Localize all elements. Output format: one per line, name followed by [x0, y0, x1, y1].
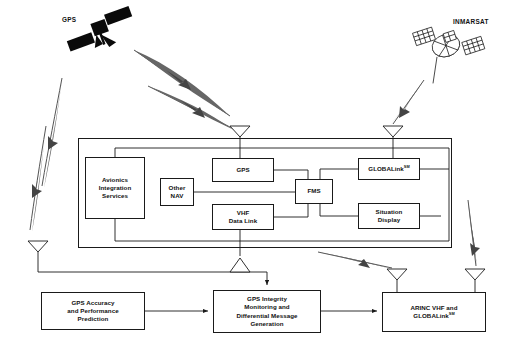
accuracy-line-3: Prediction [78, 315, 109, 322]
gps-integrity-monitoring-box[interactable]: GPS Integrity Monitoring and Differentia… [213, 290, 321, 333]
wire-arinc-antenna-stems [397, 280, 475, 292]
diagram-canvas: GPS INMARSAT Avionics Integration Servic… [0, 0, 526, 358]
globalink-avionics-label: GLOBALink [368, 165, 404, 172]
beam-inmarsat-to-aircraft [391, 80, 424, 124]
arinc-line-2: GLOBALink [413, 312, 449, 319]
ais-line-1: Avionics [102, 176, 128, 183]
ais-line-2: Integration [99, 184, 132, 191]
situation-line-2: Display [378, 216, 400, 223]
avionics-integration-services-box[interactable]: Avionics Integration Services [85, 157, 145, 219]
vhf-data-link-box[interactable]: VHF Data Link [212, 204, 274, 230]
integrity-line-1: GPS Integrity [247, 295, 287, 302]
globalink-avionics-box[interactable]: GLOBALinkSM [358, 158, 420, 180]
integrity-line-2: Monitoring and [244, 303, 289, 310]
integrity-line-4: Generation [250, 320, 283, 327]
situation-display-box[interactable]: Situation Display [358, 203, 420, 229]
globalink-avionics-sup: SM [404, 165, 410, 169]
fms-label: FMS [305, 187, 322, 195]
wire-uplink-antenna-down-to-integrity [240, 272, 267, 285]
gps-satellite-icon [63, 6, 140, 60]
inmarsat-satellite-label: INMARSAT [453, 18, 489, 25]
wire-ground-antenna-to-uplink-antenna [38, 252, 240, 272]
other-nav-line-1: Other [169, 184, 186, 191]
other-nav-box[interactable]: Other NAV [160, 178, 194, 206]
antenna-aircraft-gps [230, 126, 250, 137]
other-nav-line-2: NAV [171, 192, 184, 199]
arinc-line-1: ARINC VHF and [410, 304, 457, 311]
gps-accuracy-performance-prediction-box[interactable]: GPS Accuracy and Performance Prediction [41, 292, 145, 330]
antenna-aircraft-satcom [383, 126, 403, 137]
gps-satellite-label: GPS [62, 16, 76, 23]
beam-aircraft-to-arinc-vhf [318, 252, 392, 269]
ais-line-3: Services [102, 192, 128, 199]
accuracy-line-2: and Performance [67, 307, 118, 314]
beam-gps-to-aircraft-1 [134, 50, 230, 116]
antenna-arinc-vhf [387, 269, 407, 280]
arinc-vhf-globalink-box[interactable]: ARINC VHF and GLOBALinkSM [382, 292, 486, 332]
antenna-ground-vhf-uplink [230, 258, 250, 272]
fms-box[interactable]: FMS [295, 179, 333, 204]
arinc-globalink-sup: SM [449, 312, 455, 316]
antenna-ground-gps-reference [28, 241, 48, 252]
integrity-line-3: Differential Message [236, 312, 297, 319]
situation-line-1: Situation [376, 208, 403, 215]
gps-receiver-label: GPS [234, 166, 251, 174]
vhf-line-1: VHF [237, 209, 250, 216]
beam-inmarsat-to-arinc-globalink [468, 200, 480, 266]
vhf-line-2: Data Link [229, 217, 257, 224]
gps-receiver-box[interactable]: GPS [212, 158, 274, 182]
accuracy-line-1: GPS Accuracy [71, 299, 114, 306]
antenna-arinc-globalink [465, 269, 485, 280]
